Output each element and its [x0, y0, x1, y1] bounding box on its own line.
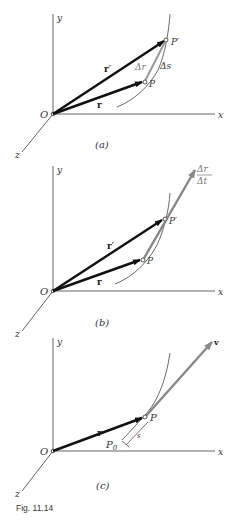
panel-b: y x z O r r′ P P′ Δr Δt (b) — [14, 164, 223, 339]
panel-c: y x z O r P P0 s v (c) — [14, 337, 223, 499]
x-axis-label: x — [218, 287, 223, 297]
label-P: P — [148, 79, 156, 89]
panel-b-label: (b) — [95, 317, 109, 328]
panel-a-label: (a) — [95, 139, 109, 150]
figure-caption: Fig. 11.14 — [16, 503, 53, 513]
vector-v — [145, 342, 212, 417]
y-axis-label: y — [56, 337, 63, 347]
label-v: v — [213, 337, 219, 347]
label-r-prime: r′ — [104, 64, 112, 74]
fraction-delta-r-over-delta-t: Δr Δt — [196, 164, 212, 186]
label-r-prime: r′ — [107, 241, 115, 251]
origin-label: O — [40, 109, 48, 120]
x-axis-label: x — [218, 447, 223, 457]
kinematics-figure: y x z O r r′ Δr Δs P P′ (a) y x z O — [0, 0, 235, 521]
fraction-numerator: Δr — [196, 164, 208, 174]
z-axis-label: z — [14, 329, 20, 339]
z-axis-label: z — [14, 150, 20, 160]
label-P0: P0 — [105, 439, 118, 452]
label-r: r — [97, 277, 102, 287]
fraction-denominator: Δt — [196, 176, 207, 186]
label-P-prime: P′ — [170, 37, 179, 47]
label-P-prime: P′ — [168, 216, 177, 226]
point-P — [141, 258, 145, 262]
x-axis-label: x — [218, 110, 223, 120]
vector-delta-r-over-delta-t — [143, 170, 195, 260]
origin-label: O — [40, 286, 48, 297]
y-axis-label: y — [56, 165, 63, 175]
label-delta-r: Δr — [134, 62, 146, 72]
label-r: r — [97, 428, 102, 438]
label-r: r — [97, 100, 102, 110]
point-P-prime — [164, 38, 168, 42]
origin-label: O — [40, 446, 48, 457]
z-axis — [22, 291, 53, 331]
z-axis — [22, 114, 53, 152]
y-axis-label: y — [56, 13, 63, 23]
point-P — [143, 415, 147, 419]
path-curve — [115, 193, 170, 284]
z-axis-label: z — [14, 489, 20, 499]
label-P: P — [146, 256, 154, 266]
z-axis — [22, 451, 53, 491]
point-P — [143, 80, 147, 84]
panel-c-label: (c) — [96, 480, 110, 491]
label-P: P — [149, 412, 157, 423]
label-s: s — [137, 432, 141, 440]
label-delta-s: Δs — [159, 61, 171, 71]
point-P-prime — [163, 217, 167, 221]
panel-a: y x z O r r′ Δr Δs P P′ (a) — [14, 13, 223, 160]
P0-tick — [122, 441, 129, 447]
